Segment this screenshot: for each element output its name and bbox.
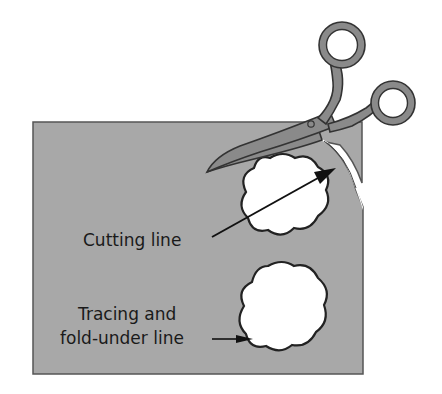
tracing-line-label-1: Tracing and bbox=[77, 304, 176, 324]
cutting-line-label: Cutting line bbox=[83, 230, 181, 250]
tracing-line-label-2: fold-under line bbox=[60, 328, 184, 348]
appliqué-diagram: Cutting line Tracing and fold-under line bbox=[0, 0, 442, 394]
scissors-ring-hole-lower bbox=[379, 89, 408, 118]
scissors-ring-hole-upper bbox=[327, 30, 358, 61]
